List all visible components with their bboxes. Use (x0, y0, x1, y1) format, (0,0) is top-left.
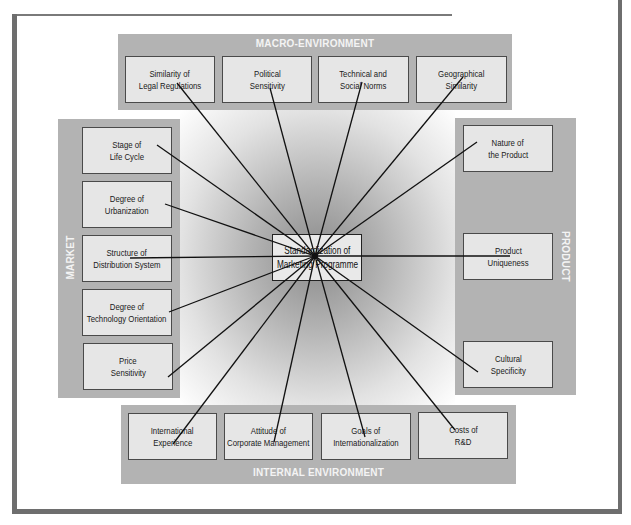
box-label-line1: Cultural (495, 353, 522, 365)
box-structure-of-distribution-system: Structure of Distribution System (82, 235, 172, 282)
box-label-line1: Attitude of (251, 425, 286, 437)
box-geographical-similarity: Geographical Similarity (416, 56, 507, 103)
box-label-line1: International (151, 425, 194, 437)
box-label-line1: Structure of (107, 247, 147, 259)
box-label-line2: Uniqueness (487, 257, 528, 269)
box-label-line2: Specificity (490, 365, 525, 377)
box-label-line2: Distribution System (93, 259, 160, 271)
box-label-line1: Goals of (351, 425, 380, 437)
box-label-line1: Degree of (110, 301, 144, 313)
box-label-line2: Internationalization (333, 437, 398, 449)
box-product-uniqueness: Product Uniqueness (463, 233, 553, 280)
box-label-line2: R&D (455, 436, 471, 448)
box-cultural-specificity: Cultural Specificity (463, 341, 553, 388)
internal-environment-title: INTERNAL ENVIRONMENT (121, 467, 516, 478)
box-attitude-of-corporate-management: Attitude of Corporate Management (224, 413, 313, 460)
box-degree-of-urbanization: Degree of Urbanization (82, 181, 172, 228)
box-label-line2: Corporate Management (227, 437, 309, 449)
box-label-line2: Technology Orientation (87, 313, 167, 325)
box-stage-of-life-cycle: Stage of Life Cycle (82, 127, 172, 174)
center-box-standardization: Standardization of Marketing Programme (272, 234, 362, 281)
frame-left-border (12, 14, 17, 514)
box-label-line1: Geographical (438, 68, 484, 80)
center-label-line2: Marketing Programme (276, 258, 357, 272)
box-label-line1: Nature of (492, 137, 524, 149)
box-degree-of-technology-orientation: Degree of Technology Orientation (82, 289, 172, 336)
box-political-sensitivity: Political Sensitivity (222, 56, 312, 103)
box-label-line2: Sensitivity (249, 80, 284, 92)
box-nature-of-the-product: Nature of the Product (463, 125, 553, 172)
box-label-line1: Price (119, 355, 137, 367)
box-label-line2: Sensitivity (110, 367, 145, 379)
box-international-experience: International Experience (128, 413, 217, 460)
box-label-line2: Legal Regulations (139, 80, 201, 92)
market-title: MARKET (65, 218, 76, 298)
box-label-line1: Degree of (110, 193, 144, 205)
frame-bottom-border (12, 509, 622, 514)
box-label-line2: Urbanization (105, 205, 149, 217)
box-label-line2: Experience (153, 437, 192, 449)
box-label-line1: Technical and (340, 68, 388, 80)
box-price-sensitivity: Price Sensitivity (83, 343, 173, 390)
frame-right-border (618, 0, 622, 514)
box-label-line1: Product (495, 245, 522, 257)
box-costs-of-rd: Costs of R&D (418, 412, 508, 459)
box-label-line1: Similarity of (150, 68, 190, 80)
macro-environment-title: MACRO-ENVIRONMENT (118, 38, 512, 49)
center-label-line1: Standardization of (284, 244, 350, 258)
box-similarity-legal-regulations: Similarity of Legal Regulations (125, 56, 215, 103)
box-label-line2: the Product (488, 149, 528, 161)
top-rule (12, 14, 452, 16)
box-label-line1: Political (254, 68, 281, 80)
box-label-line2: Social Norms (340, 80, 386, 92)
box-technical-social-norms: Technical and Social Norms (318, 56, 409, 103)
box-label-line2: Life Cycle (110, 151, 144, 163)
box-label-line1: Costs of (449, 424, 478, 436)
product-title: PRODUCT (560, 217, 571, 297)
box-label-line2: Similarity (446, 80, 478, 92)
box-goals-of-internationalization: Goals of Internationalization (321, 413, 411, 460)
box-label-line1: Stage of (112, 139, 141, 151)
